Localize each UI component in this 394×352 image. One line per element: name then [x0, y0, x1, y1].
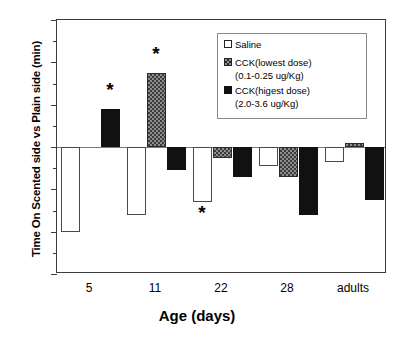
- significance-asterisk: *: [198, 203, 205, 222]
- y-tick: [51, 189, 57, 190]
- bar: [345, 143, 364, 147]
- x-tick-label: 5: [86, 281, 93, 295]
- x-tick-label: 11: [149, 281, 161, 295]
- bar: [167, 147, 186, 170]
- x-tick-label: adults: [337, 281, 369, 295]
- legend-sublabel-low-dose: (0.1-0.25 ug/Kg): [235, 70, 360, 81]
- y-tick-minor: [53, 126, 57, 127]
- legend-item-low-dose: CCK(lowest dose): [224, 57, 360, 68]
- bar: [213, 147, 232, 158]
- x-axis-title: Age (days): [0, 307, 394, 324]
- significance-asterisk: *: [106, 80, 113, 99]
- bar: [147, 73, 166, 147]
- legend-sublabel-high-dose: (2.0-3.6 ug/Kg): [235, 98, 360, 109]
- bar: [193, 147, 212, 202]
- y-tick-minor: [53, 168, 57, 169]
- bar: [299, 147, 318, 215]
- bar: [61, 147, 80, 232]
- bar: [365, 147, 384, 200]
- legend-item-saline: Saline: [224, 39, 360, 50]
- legend-label-low-dose: CCK(lowest dose): [235, 57, 312, 68]
- legend-swatch-low-dose: [224, 58, 232, 66]
- y-tick: [51, 274, 57, 275]
- y-axis-title: Time On Scented side vs Plain side (min): [30, 9, 42, 289]
- legend-label-saline: Saline: [235, 39, 261, 50]
- y-tick-minor: [53, 211, 57, 212]
- legend-label-high-dose: CCK(higest dose): [235, 85, 310, 96]
- y-tick: [51, 147, 57, 148]
- chart-figure: Time On Scented side vs Plain side (min)…: [0, 0, 394, 352]
- legend-swatch-high-dose: [224, 86, 232, 94]
- bar: [279, 147, 298, 177]
- bar: [101, 109, 120, 147]
- bar: [259, 147, 278, 166]
- y-tick: [51, 105, 57, 106]
- y-tick: [51, 62, 57, 63]
- y-tick-minor: [53, 84, 57, 85]
- bar: [325, 147, 344, 162]
- y-tick: [51, 232, 57, 233]
- legend-swatch-saline: [224, 40, 232, 48]
- significance-asterisk: *: [152, 44, 159, 63]
- x-tick-label: 28: [280, 281, 293, 295]
- y-tick-minor: [53, 253, 57, 254]
- legend: Saline CCK(lowest dose) (0.1-0.25 ug/Kg)…: [217, 33, 367, 119]
- bar: [127, 147, 146, 215]
- y-tick: [51, 20, 57, 21]
- y-tick-minor: [53, 41, 57, 42]
- bar: [233, 147, 252, 177]
- x-tick-label: 22: [214, 281, 227, 295]
- legend-item-high-dose: CCK(higest dose): [224, 85, 360, 96]
